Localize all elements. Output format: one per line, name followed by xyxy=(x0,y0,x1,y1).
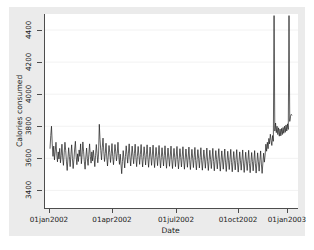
y-tick-mark xyxy=(37,94,42,95)
y-tick-mark xyxy=(37,190,42,191)
y-tick-label: 3600 xyxy=(25,147,32,169)
series-line-chart xyxy=(45,14,298,208)
x-tick-label: 01apr2002 xyxy=(92,215,131,224)
y-tick-label: 4200 xyxy=(25,51,32,73)
x-tick-label: 01jul2002 xyxy=(158,215,194,224)
x-tick-mark xyxy=(238,209,239,213)
x-tick-mark xyxy=(176,209,177,213)
y-tick-mark xyxy=(37,30,42,31)
gridlines xyxy=(45,30,298,190)
y-tick-label: 4000 xyxy=(25,83,32,105)
x-tick-label: 01oct2002 xyxy=(219,215,258,224)
chart-figure: Calories consumed 3400360038004000420044… xyxy=(0,0,314,250)
y-tick-mark xyxy=(37,126,42,127)
plot-area xyxy=(44,14,298,209)
y-tick-label: 3800 xyxy=(25,115,32,137)
x-axis-title: Date xyxy=(44,226,297,235)
x-tick-label: 01jan2003 xyxy=(268,215,306,224)
x-tick-mark xyxy=(112,209,113,213)
x-tick-mark xyxy=(49,209,50,213)
y-tick-label: 4400 xyxy=(25,19,32,41)
y-tick-label: 3400 xyxy=(25,179,32,201)
y-tick-mark xyxy=(37,158,42,159)
x-tick-label: 01jan2002 xyxy=(30,215,68,224)
x-tick-mark xyxy=(287,209,288,213)
y-axis-title: Calories consumed xyxy=(14,14,24,208)
y-tick-mark xyxy=(37,62,42,63)
